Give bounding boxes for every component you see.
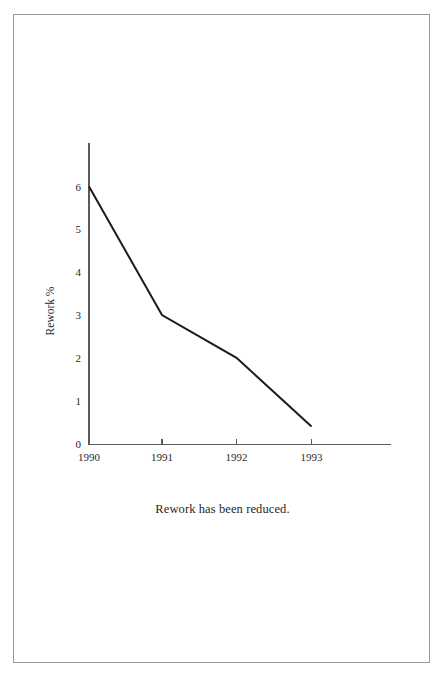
data-series-rework-percent (89, 187, 312, 427)
y-tick-label-1: 1 (76, 395, 82, 407)
y-tick-label-5: 5 (76, 223, 82, 235)
x-tick-label-1991: 1991 (151, 451, 173, 463)
line-chart-plot: 6 5 4 3 2 1 0 1990 1991 1992 1993 Rework… (14, 15, 431, 495)
x-tick-label-1993: 1993 (301, 451, 324, 463)
figure-caption: Rework has been reduced. (14, 502, 431, 517)
x-tick-label-1990: 1990 (78, 451, 101, 463)
y-axis-title: Rework % (44, 286, 56, 335)
y-tick-label-3: 3 (76, 309, 82, 321)
page-canvas: 6 5 4 3 2 1 0 1990 1991 1992 1993 Rework… (0, 0, 444, 677)
y-tick-label-4: 4 (76, 266, 82, 278)
x-tick-label-1992: 1992 (226, 451, 248, 463)
y-tick-label-6: 6 (76, 181, 82, 193)
y-tick-label-2: 2 (76, 352, 82, 364)
page-frame-border: 6 5 4 3 2 1 0 1990 1991 1992 1993 Rework… (13, 14, 430, 663)
figure-container: 6 5 4 3 2 1 0 1990 1991 1992 1993 Rework… (14, 15, 431, 664)
y-tick-label-0: 0 (76, 438, 82, 450)
